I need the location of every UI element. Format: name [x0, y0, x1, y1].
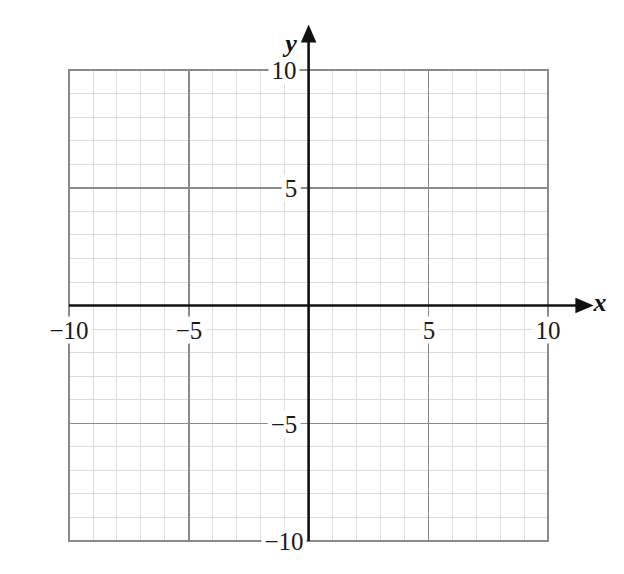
y-tick-label-minus5: −5 [268, 411, 301, 438]
y-tick-label-plus10: 10 [269, 57, 300, 84]
x-tick-label-minus10: −10 [46, 317, 91, 344]
coordinate-grid-figure: −10 −5 5 10 10 5 −5 −10 x y [0, 0, 624, 574]
x-axis-label: x [594, 290, 607, 316]
x-tick-label-minus5: −5 [173, 317, 206, 344]
y-tick-label-minus10: −10 [261, 528, 306, 555]
y-tick-label-plus5: 5 [282, 175, 301, 202]
coordinate-plane-svg [0, 0, 624, 574]
x-tick-label-plus5: 5 [420, 317, 439, 344]
y-axis-label: y [285, 31, 297, 57]
x-tick-label-plus10: 10 [533, 317, 564, 344]
